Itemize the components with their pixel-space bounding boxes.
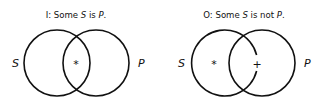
label-p: P — [304, 57, 311, 70]
circle-s — [192, 30, 257, 96]
label-s: S — [178, 57, 185, 70]
asterisk-mark: * — [73, 58, 79, 71]
circle-p — [229, 30, 295, 96]
label-s: S — [12, 57, 19, 70]
asterisk-mark: * — [211, 58, 217, 71]
diagram-o-title: O: Some S is not P. — [203, 9, 284, 20]
diagram-o: O: Some S is not P. S P * + — [178, 9, 311, 96]
venn-diagrams: I: Some S is P. S P * O: Some S is not P… — [0, 0, 321, 102]
circle-s — [24, 30, 90, 96]
diagram-i: I: Some S is P. S P * — [12, 9, 145, 96]
plus-mark: + — [252, 58, 261, 71]
diagram-i-title: I: Some S is P. — [46, 9, 107, 20]
label-p: P — [138, 57, 145, 70]
